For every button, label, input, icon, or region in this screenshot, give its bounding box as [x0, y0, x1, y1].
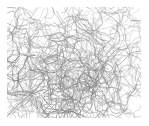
- scribble-strokes-svg: [7, 7, 141, 118]
- scribble-texture-panel: [7, 7, 141, 118]
- artwork-canvas: Scribble Texture Panel Dense tangle of t…: [0, 0, 149, 126]
